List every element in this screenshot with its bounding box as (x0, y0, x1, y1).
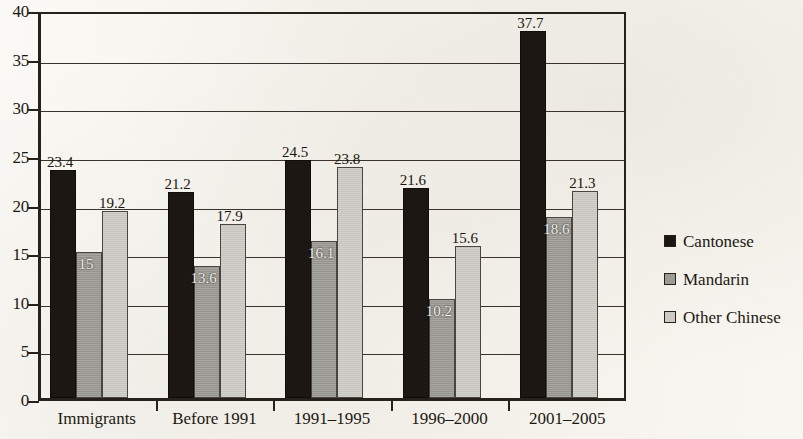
bar-value-label: 15.6 (441, 231, 489, 246)
bar-other-chinese (455, 246, 481, 398)
y-axis-tick-label: 40 (0, 3, 29, 20)
bar-other-chinese (220, 224, 246, 398)
bar-cantonese (285, 160, 311, 398)
y-axis-tick-label: 5 (0, 343, 29, 360)
legend-label: Cantonese (683, 233, 754, 250)
bar-value-label: 37.7 (506, 16, 554, 31)
x-axis-category-label: Immigrants (38, 410, 156, 427)
legend-label: Other Chinese (683, 309, 781, 326)
bar-value-label: 17.9 (206, 209, 254, 224)
legend-item-mandarin: Mandarin (664, 260, 800, 298)
bar-value-label: 15 (62, 257, 110, 272)
legend-swatch-icon (664, 311, 676, 323)
legend-swatch-icon (664, 235, 676, 247)
bar-value-label: 18.6 (532, 222, 580, 237)
bar-value-label: 10.2 (415, 304, 463, 319)
bar-cantonese (168, 192, 194, 398)
legend: CantoneseMandarinOther Chinese (664, 222, 800, 336)
y-axis-tick-label: 10 (0, 295, 29, 312)
bar-value-label: 21.6 (389, 173, 437, 188)
bar-value-label: 24.5 (271, 145, 319, 160)
bar-other-chinese (337, 167, 363, 398)
y-axis-tick-label: 35 (0, 52, 29, 69)
bar-mandarin (311, 241, 337, 398)
y-axis-tick (28, 401, 39, 403)
bar-value-label: 21.2 (154, 177, 202, 192)
bar-value-label: 19.2 (88, 196, 136, 211)
bar-value-label: 23.4 (36, 155, 84, 170)
bar-cantonese (50, 170, 76, 398)
x-axis-category-label: 2001–2005 (508, 410, 626, 427)
bar-value-label: 13.6 (180, 271, 228, 286)
y-axis-tick-label: 30 (0, 100, 29, 117)
bar-value-label: 21.3 (558, 176, 606, 191)
bar-cantonese (403, 188, 429, 398)
bar-value-label: 23.8 (323, 152, 371, 167)
x-axis-category-label: 1996–2000 (391, 410, 509, 427)
bar-mandarin (546, 217, 572, 398)
y-axis-tick-label: 15 (0, 246, 29, 263)
legend-swatch-icon (664, 273, 676, 285)
bar-mandarin (76, 252, 102, 398)
bar-value-label: 16.1 (297, 246, 345, 261)
x-axis-category-label: 1991–1995 (273, 410, 391, 427)
chart-screenshot: 0510152025303540 ImmigrantsBefore 199119… (0, 0, 803, 439)
x-axis-category-label: Before 1991 (156, 410, 274, 427)
bar-cantonese (520, 31, 546, 398)
legend-label: Mandarin (683, 271, 749, 288)
legend-item-other-chinese: Other Chinese (664, 298, 800, 336)
legend-item-cantonese: Cantonese (664, 222, 800, 260)
y-axis-tick-label: 20 (0, 198, 29, 215)
bar-other-chinese (102, 211, 128, 398)
y-axis-tick-label: 0 (0, 392, 29, 409)
y-axis-tick-label: 25 (0, 149, 29, 166)
